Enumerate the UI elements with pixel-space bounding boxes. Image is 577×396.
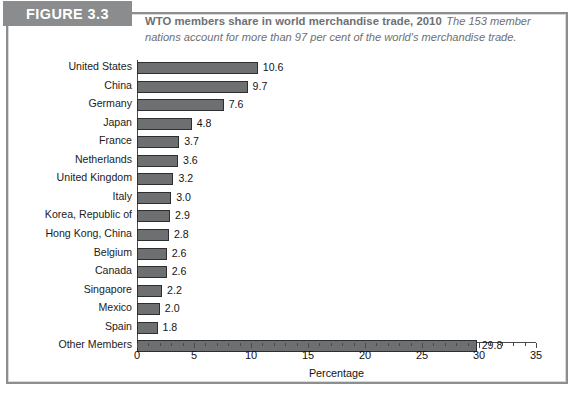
x-tick-minor — [262, 343, 263, 346]
x-tick-minor — [376, 343, 377, 346]
x-tick-label: 15 — [302, 349, 314, 361]
bar-value-label: 2.8 — [174, 228, 189, 240]
bar — [137, 136, 179, 148]
x-tick-major — [308, 343, 309, 348]
x-axis-title: Percentage — [137, 367, 536, 379]
x-tick-label: 20 — [359, 349, 371, 361]
bar — [137, 99, 224, 111]
bar-value-label: 10.6 — [263, 61, 284, 73]
bar-value-label: 2.9 — [175, 209, 190, 221]
category-label: Mexico — [98, 301, 132, 313]
bar-value-label: 2.2 — [167, 284, 182, 296]
x-tick-minor — [388, 343, 389, 346]
bar-value-label: 3.0 — [176, 191, 191, 203]
x-tick-minor — [445, 343, 446, 346]
category-label: Belgium — [94, 246, 132, 258]
x-tick-minor — [502, 343, 503, 346]
bar-value-label: 7.6 — [229, 98, 244, 110]
x-tick-minor — [354, 343, 355, 346]
x-tick-major — [422, 343, 423, 348]
bar-value-label: 1.8 — [163, 321, 178, 333]
category-label: Italy — [113, 190, 132, 202]
x-tick-minor — [285, 343, 286, 346]
x-tick-minor — [217, 343, 218, 346]
x-tick-label: 0 — [134, 349, 140, 361]
category-label: Korea, Republic of — [45, 208, 132, 220]
category-label: Spain — [105, 320, 132, 332]
x-tick-minor — [205, 343, 206, 346]
bar — [137, 81, 248, 93]
bar — [137, 118, 192, 130]
bar — [137, 173, 173, 185]
x-tick-label: 35 — [530, 349, 542, 361]
x-tick-minor — [513, 343, 514, 346]
x-tick-major — [536, 343, 537, 348]
x-tick-major — [137, 343, 138, 348]
x-tick-minor — [490, 343, 491, 346]
x-tick-label: 10 — [245, 349, 257, 361]
bar — [137, 229, 169, 241]
bar-value-label: 4.8 — [197, 117, 212, 129]
bar — [137, 266, 167, 278]
x-tick-major — [365, 343, 366, 348]
x-tick-minor — [525, 343, 526, 346]
bar-value-label: 2.6 — [172, 265, 187, 277]
x-tick-minor — [331, 343, 332, 346]
category-label: Canada — [95, 264, 132, 276]
category-label: Japan — [103, 116, 132, 128]
category-label-column: United StatesChinaGermanyJapanFranceNeth… — [14, 0, 132, 396]
x-tick-minor — [274, 343, 275, 346]
category-label: China — [104, 79, 132, 91]
figure-title: WTO members share in world merchandise t… — [145, 15, 442, 27]
x-tick-minor — [160, 343, 161, 346]
bar-value-label: 3.2 — [178, 172, 193, 184]
x-tick-major — [479, 343, 480, 348]
x-tick-minor — [171, 343, 172, 346]
x-tick-minor — [228, 343, 229, 346]
category-label: Germany — [88, 97, 132, 109]
category-label: United Kingdom — [57, 171, 132, 183]
category-label: France — [99, 134, 132, 146]
category-label: Other Members — [58, 338, 132, 350]
bar — [137, 192, 171, 204]
x-tick-minor — [240, 343, 241, 346]
x-tick-label: 5 — [191, 349, 197, 361]
category-label: Netherlands — [75, 153, 132, 165]
x-tick-label: 25 — [416, 349, 428, 361]
x-tick-minor — [433, 343, 434, 346]
category-label: Hong Kong, China — [45, 227, 132, 239]
x-tick-minor — [148, 343, 149, 346]
bar — [137, 285, 162, 297]
x-tick-minor — [468, 343, 469, 346]
bar — [137, 322, 158, 334]
figure-number-badge: FIGURE 3.3 — [3, 1, 132, 26]
category-label: United States — [68, 60, 132, 72]
x-tick-label: 30 — [473, 349, 485, 361]
bar-value-label: 9.7 — [253, 80, 268, 92]
bar-value-label: 2.6 — [172, 247, 187, 259]
bar-value-label: 3.7 — [184, 135, 199, 147]
x-tick-minor — [319, 343, 320, 346]
x-tick-major — [194, 343, 195, 348]
x-tick-minor — [342, 343, 343, 346]
x-tick-major — [251, 343, 252, 348]
x-tick-minor — [399, 343, 400, 346]
figure-caption: WTO members share in world merchandise t… — [145, 13, 557, 44]
bar — [137, 248, 167, 260]
x-tick-minor — [411, 343, 412, 346]
bar — [137, 210, 170, 222]
category-label: Singapore — [84, 283, 132, 295]
bar — [137, 155, 178, 167]
bar-value-label: 3.6 — [183, 154, 198, 166]
bar — [137, 62, 258, 74]
x-tick-minor — [183, 343, 184, 346]
x-tick-minor — [297, 343, 298, 346]
bar-value-label: 2.0 — [165, 302, 180, 314]
bar-chart-plot: United StatesChinaGermanyJapanFranceNeth… — [0, 0, 577, 396]
bar — [137, 303, 160, 315]
x-tick-minor — [456, 343, 457, 346]
